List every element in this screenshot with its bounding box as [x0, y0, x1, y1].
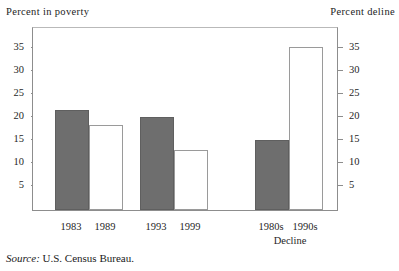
right-tick-20: [338, 116, 343, 117]
left-tick-label-10: 10: [14, 157, 25, 168]
left-tick-label-30: 30: [14, 65, 25, 76]
right-axis-caption: Percent deline: [330, 6, 395, 17]
bar-1999: [174, 150, 208, 210]
left-axis: 35 30 25 20 15 10 5: [2, 27, 32, 211]
left-tick-label-35: 35: [14, 42, 25, 53]
right-tick-label-25: 25: [349, 88, 360, 99]
right-tick-10: [338, 162, 343, 163]
source-text: U.S. Census Bureau.: [43, 252, 134, 264]
right-tick-5: [338, 185, 343, 186]
x-label-1983: 1983: [61, 222, 82, 233]
bar-1983: [55, 110, 89, 210]
bar-1980s: [255, 140, 289, 210]
right-tick-label-35: 35: [349, 42, 360, 53]
left-tick-label-15: 15: [14, 134, 25, 145]
left-tick-label-25: 25: [14, 88, 25, 99]
right-tick-30: [338, 70, 343, 71]
bar-1990s: [289, 47, 323, 210]
source-prefix: Source:: [6, 252, 40, 264]
x-label-1990s: 1990s: [292, 222, 317, 233]
x-label-1980s: 1980s: [258, 222, 283, 233]
plot-area: [32, 27, 338, 211]
left-tick-label-20: 20: [14, 111, 25, 122]
x-label-1989: 1989: [95, 222, 116, 233]
right-tick-35: [338, 47, 343, 48]
left-axis-caption: Percent in poverty: [6, 6, 89, 17]
right-tick-label-20: 20: [349, 111, 360, 122]
poverty-decline-bar-chart: Percent in poverty Percent deline 35 30 …: [0, 0, 399, 271]
right-tick-label-30: 30: [349, 65, 360, 76]
right-axis: 35 30 25 20 15 10 5: [339, 27, 369, 211]
right-tick-label-15: 15: [349, 134, 360, 145]
right-tick-label-5: 5: [349, 180, 354, 191]
source-note: Source: U.S. Census Bureau.: [6, 252, 134, 264]
right-tick-label-10: 10: [349, 157, 360, 168]
right-tick-25: [338, 93, 343, 94]
x-label-1999: 1999: [180, 222, 201, 233]
group-label-decline: Decline: [274, 236, 307, 247]
bar-1989: [89, 125, 123, 210]
left-tick-label-5: 5: [19, 180, 24, 191]
right-tick-15: [338, 139, 343, 140]
x-label-1993: 1993: [146, 222, 167, 233]
bar-1993: [140, 117, 174, 210]
